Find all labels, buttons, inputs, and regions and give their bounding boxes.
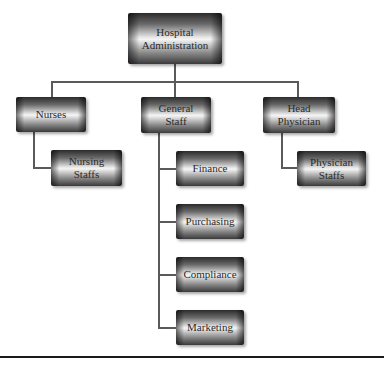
node-hospital-administration: Hospital Administration xyxy=(128,13,222,64)
bottom-rule xyxy=(0,356,384,358)
node-general-staff: General Staff xyxy=(141,97,211,133)
head-physician-drop-line xyxy=(297,81,299,97)
node-finance: Finance xyxy=(176,151,244,186)
node-label-line1: Nurses xyxy=(36,108,67,121)
node-label-line1: Head xyxy=(278,102,321,115)
node-label: Compliance xyxy=(183,268,236,281)
node-physician-staffs: Physician Staffs xyxy=(297,151,366,186)
node-purchasing: Purchasing xyxy=(176,204,244,239)
general-staff-child-vertical-line xyxy=(158,133,160,329)
head-physician-child-horizontal-line xyxy=(281,167,297,169)
node-label-line1: Nursing xyxy=(69,155,104,168)
node-label: Purchasing xyxy=(186,215,235,228)
nurses-child-vertical-line xyxy=(33,132,35,169)
purchasing-connector-line xyxy=(158,221,176,223)
node-marketing: Marketing xyxy=(176,310,244,345)
node-label: Finance xyxy=(193,162,228,175)
node-label-line1: General xyxy=(159,102,194,115)
nurses-drop-line xyxy=(51,81,53,97)
node-label-line1: Hospital xyxy=(142,26,209,39)
node-label-line2: Staffs xyxy=(310,169,353,182)
node-label-line2: Administration xyxy=(142,39,209,52)
head-physician-child-vertical-line xyxy=(281,133,283,169)
node-head-physician: Head Physician xyxy=(263,97,335,133)
nurses-child-horizontal-line xyxy=(33,167,51,169)
marketing-connector-line xyxy=(158,327,176,329)
finance-connector-line xyxy=(158,168,176,170)
root-stem-line xyxy=(174,64,176,82)
general-staff-drop-line xyxy=(174,81,176,97)
node-nurses: Nurses xyxy=(16,97,86,132)
node-compliance: Compliance xyxy=(176,257,244,292)
node-label: Marketing xyxy=(187,321,233,334)
node-label-line1: Physician xyxy=(310,156,353,169)
compliance-connector-line xyxy=(158,274,176,276)
node-label-line2: Staffs xyxy=(69,168,104,181)
node-label-line2: Staff xyxy=(159,115,194,128)
node-label-line2: Physician xyxy=(278,115,321,128)
node-nursing-staffs: Nursing Staffs xyxy=(51,150,122,186)
